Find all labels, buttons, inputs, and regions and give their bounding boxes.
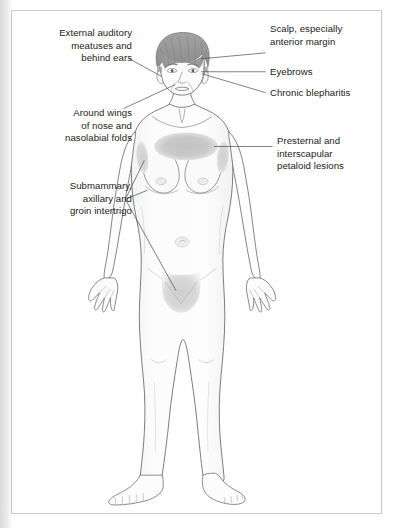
arm-right [229, 132, 260, 280]
areola-right [198, 178, 208, 185]
head [156, 32, 209, 95]
foot-left [109, 475, 163, 505]
presternal-lesion [154, 133, 218, 161]
navel [175, 237, 189, 247]
areola-left [156, 178, 166, 185]
leader-scalp [201, 53, 266, 59]
label-external-auditory-meatuses: External auditory meatuses and behind ea… [18, 27, 132, 65]
figure-panel: External auditory meatuses and behind ea… [11, 10, 382, 514]
hand-right [246, 278, 275, 312]
body-figure [89, 32, 276, 505]
pupil-right [192, 69, 195, 72]
hand-left [89, 278, 118, 312]
label-around-wings-of-nose: Around wings of nose and nasolabial fold… [18, 107, 132, 145]
label-submammary-axillary-groin: Submammary, axillary and groin intertrig… [18, 180, 132, 218]
screenshot-root: External auditory meatuses and behind ea… [0, 0, 395, 528]
label-chronic-blepharitis: Chronic blepharitis [270, 87, 382, 100]
label-eyebrows: Eyebrows [270, 66, 382, 79]
label-presternal-interscapular: Presternal and interscapular petaloid le… [277, 135, 381, 173]
pupil-left [171, 69, 174, 72]
leader-blepharitis [202, 74, 266, 93]
label-scalp-anterior-margin: Scalp, especially anterior margin [270, 23, 382, 48]
